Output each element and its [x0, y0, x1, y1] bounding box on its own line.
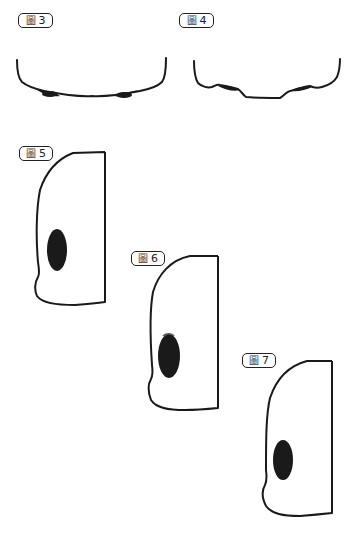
figure-6-drawing	[149, 256, 218, 410]
diagram-canvas	[0, 0, 357, 553]
figure-7-drawing	[263, 361, 332, 516]
figure-3-drawing	[17, 58, 166, 98]
figure-4-drawing	[194, 59, 340, 98]
figure-5-drawing	[35, 152, 105, 305]
